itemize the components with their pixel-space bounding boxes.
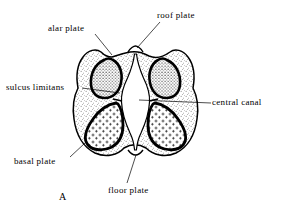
label-floor-plate: floor plate bbox=[108, 186, 149, 195]
label-central-canal: central canal bbox=[212, 98, 262, 107]
leader-line-floor-plate bbox=[127, 155, 136, 183]
floor-plate-structure bbox=[128, 150, 143, 155]
leader-line-basal-plate bbox=[70, 143, 85, 157]
label-roof-plate: roof plate bbox=[157, 11, 195, 20]
leader-line-roof-plate bbox=[137, 22, 160, 48]
figure-letter-a: A bbox=[59, 192, 67, 202]
label-alar-plate: alar plate bbox=[48, 24, 84, 33]
label-basal-plate: basal plate bbox=[14, 157, 56, 166]
label-sulcus-limitans: sulcus limitans bbox=[6, 83, 64, 92]
figure-page: alar plate roof plate sulcus limitans ce… bbox=[0, 0, 285, 213]
